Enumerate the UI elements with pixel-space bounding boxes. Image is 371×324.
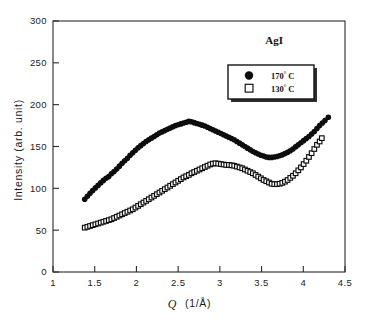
x-tick-label: 4.5	[338, 277, 352, 288]
legend-label-170c: 170° C	[271, 71, 294, 81]
y-tick-label: 0	[41, 266, 47, 277]
x-axis-title-units: (1/Å)	[185, 297, 211, 309]
y-tick-label: 50	[36, 225, 47, 236]
legend-marker-170c	[245, 71, 253, 79]
data-point	[326, 114, 332, 120]
frame-rect	[53, 21, 345, 272]
sample-label-agi: AgI	[265, 34, 283, 46]
y-tick-label: 250	[30, 57, 47, 68]
x-tick-label: 3	[217, 277, 223, 288]
data-point	[320, 136, 325, 141]
chart-figure: 11.522.533.544.5 050100150200250300 Inte…	[0, 0, 371, 324]
y-axis-title: Intensity (arb. unit)	[12, 99, 24, 201]
x-axis-ticks	[53, 266, 345, 272]
y-tick-label: 300	[30, 15, 47, 26]
x-tick-label: 2	[134, 277, 140, 288]
y-axis-tick-labels: 050100150200250300	[30, 15, 47, 277]
x-tick-label: 2.5	[171, 277, 185, 288]
y-tick-label: 150	[30, 141, 47, 152]
x-axis-title-symbol: Q	[168, 297, 177, 311]
x-axis-title: Q (1/Å)	[168, 297, 212, 311]
y-axis-ticks	[53, 21, 59, 272]
x-tick-label: 3.5	[254, 277, 268, 288]
series-markers-170c	[82, 114, 331, 202]
y-tick-label: 200	[30, 99, 47, 110]
x-tick-label: 1.5	[88, 277, 102, 288]
legend-marker-130c	[245, 84, 253, 92]
chart-legend[interactable]: 170° C 130° C	[228, 65, 317, 102]
plot-frame	[53, 21, 345, 272]
x-tick-label: 4	[300, 277, 306, 288]
x-axis-tick-labels: 11.522.533.544.5	[50, 277, 352, 288]
plot-canvas: 11.522.533.544.5 050100150200250300 Inte…	[0, 0, 371, 324]
legend-label-130c: 130° C	[271, 84, 294, 94]
y-tick-label: 100	[30, 183, 47, 194]
x-tick-label: 1	[50, 277, 56, 288]
